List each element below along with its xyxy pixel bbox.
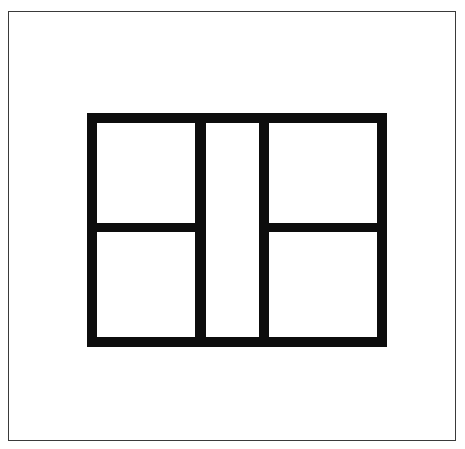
frame-top-bar: [87, 113, 387, 123]
cell-top-left: [97, 123, 195, 223]
cell-bottom-right: [269, 232, 377, 337]
cell-center: [206, 123, 259, 337]
cell-bottom-left: [97, 232, 195, 337]
cell-top-right: [269, 123, 377, 223]
divider-horizontal-right-bar: [259, 223, 387, 232]
divider-vertical-left-bar: [195, 113, 206, 347]
divider-vertical-right-bar: [259, 113, 269, 347]
divider-horizontal-left-bar: [87, 223, 206, 232]
partitioned-rectangle-figure: [87, 113, 387, 347]
frame-bottom-bar: [87, 337, 387, 347]
figure-canvas: [0, 0, 465, 449]
